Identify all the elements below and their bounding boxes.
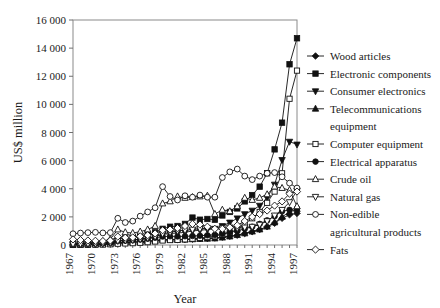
y-axis-title: US$ million bbox=[11, 101, 25, 163]
marker-open-circle bbox=[234, 166, 240, 172]
marker-open-circle bbox=[78, 230, 84, 236]
marker-open-circle bbox=[212, 194, 218, 200]
marker-filled-circle bbox=[313, 159, 319, 165]
marker-filled-circle bbox=[287, 207, 293, 213]
marker-open-circle bbox=[137, 213, 143, 219]
y-tick-label: 12 000 bbox=[36, 70, 67, 82]
marker-open-circle bbox=[272, 170, 278, 176]
marker-open-circle bbox=[205, 194, 211, 200]
x-axis-title: Year bbox=[173, 292, 197, 306]
x-tick-label: 1979 bbox=[153, 253, 165, 276]
marker-open-up-triangle bbox=[294, 203, 300, 209]
marker-open-diamond bbox=[312, 246, 319, 253]
marker-open-circle bbox=[160, 184, 166, 190]
x-tick-label: 1976 bbox=[130, 253, 142, 276]
marker-filled-square bbox=[212, 217, 217, 222]
marker-filled-circle bbox=[205, 232, 211, 238]
marker-open-circle bbox=[175, 197, 181, 203]
marker-open-up-triangle bbox=[115, 226, 121, 232]
x-tick-label: 1970 bbox=[85, 253, 97, 276]
y-tick-label: 10 000 bbox=[36, 98, 67, 110]
marker-open-circle bbox=[107, 230, 113, 236]
marker-open-square bbox=[265, 200, 270, 205]
marker-filled-square bbox=[272, 147, 277, 152]
marker-open-up-triangle bbox=[152, 222, 158, 228]
marker-filled-square bbox=[279, 120, 284, 125]
legend-item[interactable]: Fats bbox=[307, 244, 348, 256]
plot-frame bbox=[73, 20, 297, 245]
marker-open-up-triangle bbox=[312, 176, 318, 182]
marker-open-circle bbox=[279, 174, 285, 180]
marker-filled-square bbox=[313, 71, 318, 76]
legend-item[interactable]: equipment bbox=[330, 120, 376, 132]
marker-filled-down-triangle bbox=[294, 142, 300, 148]
series-5 bbox=[73, 71, 297, 245]
marker-filled-square bbox=[257, 184, 262, 189]
marker-open-circle bbox=[257, 173, 263, 179]
legend-item[interactable]: Non-edible bbox=[307, 208, 380, 220]
marker-open-circle bbox=[152, 205, 158, 211]
marker-filled-down-triangle bbox=[234, 216, 240, 222]
marker-open-circle bbox=[242, 173, 248, 179]
x-tick-label: 1973 bbox=[108, 253, 120, 276]
marker-open-circle bbox=[313, 212, 319, 218]
marker-open-down-triangle bbox=[312, 194, 318, 200]
marker-open-circle bbox=[130, 218, 136, 224]
x-tick-label: 1985 bbox=[197, 253, 209, 276]
legend-label: Fats bbox=[330, 244, 348, 256]
legend-label: Wood articles bbox=[330, 50, 391, 62]
marker-open-diamond bbox=[264, 207, 271, 214]
legend-label: Computer equipment bbox=[330, 138, 423, 150]
legend-item[interactable]: Natural gas bbox=[307, 191, 380, 203]
legend-item[interactable]: Electronic components bbox=[307, 68, 431, 80]
legend-item[interactable]: Computer equipment bbox=[307, 138, 423, 150]
marker-open-circle bbox=[182, 193, 188, 199]
y-tick-label: 0 bbox=[61, 239, 67, 251]
legend-label: equipment bbox=[330, 120, 376, 132]
line-chart: 02 0004 0006 0008 00010 00012 00014 0001… bbox=[0, 0, 440, 308]
x-tick-label: 1997 bbox=[287, 253, 299, 276]
legend-label: Crude oil bbox=[330, 173, 371, 185]
marker-open-circle bbox=[264, 170, 270, 176]
legend-item[interactable]: Wood articles bbox=[307, 50, 391, 62]
x-tick-label: 1994 bbox=[265, 253, 277, 276]
x-tick-label: 1967 bbox=[63, 253, 75, 276]
marker-open-circle bbox=[227, 169, 233, 175]
marker-open-circle bbox=[219, 175, 225, 181]
marker-filled-down-triangle bbox=[279, 158, 285, 164]
legend-label: Non-edible bbox=[330, 208, 380, 220]
marker-open-circle bbox=[115, 215, 121, 221]
marker-open-square bbox=[272, 189, 277, 194]
series-markers-2 bbox=[70, 36, 299, 248]
legend-item[interactable]: agricultural products bbox=[330, 226, 421, 238]
y-tick-label: 6 000 bbox=[41, 155, 66, 167]
marker-open-up-triangle bbox=[242, 194, 248, 200]
series-line bbox=[73, 71, 297, 245]
legend-item[interactable]: Telecommunications bbox=[307, 103, 421, 115]
marker-open-diamond bbox=[271, 202, 278, 209]
marker-open-square bbox=[313, 141, 318, 146]
marker-open-square bbox=[287, 96, 292, 101]
x-tick-label: 1991 bbox=[242, 253, 254, 275]
marker-open-circle bbox=[100, 230, 106, 236]
x-tick-label: 1988 bbox=[220, 253, 232, 276]
marker-open-circle bbox=[190, 194, 196, 200]
marker-open-circle bbox=[167, 194, 173, 200]
marker-filled-up-triangle bbox=[312, 105, 318, 111]
marker-filled-square bbox=[190, 215, 195, 220]
marker-filled-square bbox=[287, 62, 292, 67]
legend-label: agricultural products bbox=[330, 226, 421, 238]
marker-open-circle bbox=[93, 229, 99, 235]
legend-item[interactable]: Electrical apparatus bbox=[307, 156, 417, 168]
marker-open-circle bbox=[197, 192, 203, 198]
legend-label: Telecommunications bbox=[330, 103, 421, 115]
legend-label: Electrical apparatus bbox=[330, 156, 417, 168]
marker-open-circle bbox=[85, 230, 91, 236]
legend-item[interactable]: Crude oil bbox=[307, 173, 371, 185]
marker-filled-diamond bbox=[312, 53, 319, 60]
marker-open-circle bbox=[145, 209, 151, 215]
marker-filled-square bbox=[220, 213, 225, 218]
legend-item[interactable]: Consumer electronics bbox=[307, 85, 426, 97]
legend-label: Consumer electronics bbox=[330, 85, 426, 97]
marker-filled-square bbox=[294, 36, 299, 41]
